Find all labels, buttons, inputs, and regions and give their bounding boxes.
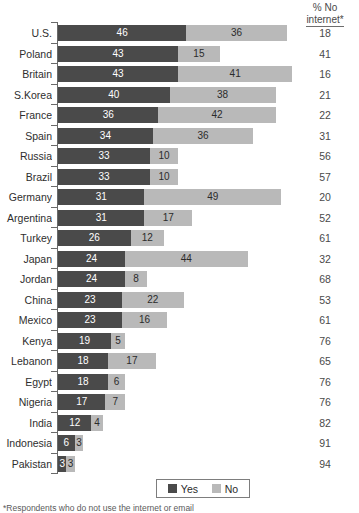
country-label: India	[0, 414, 52, 432]
bar-value-yes: 31	[58, 189, 144, 205]
bar-value-no: 7	[105, 394, 125, 410]
chart-row: Germany314920	[0, 188, 359, 206]
no-internet-value: 52	[296, 209, 354, 227]
chart-row: Jordan24868	[0, 270, 359, 288]
bar-value-yes: 40	[58, 87, 170, 103]
bar-value-no: 49	[144, 189, 281, 205]
bar-value-yes: 23	[58, 292, 122, 308]
chart-row: U.S.463618	[0, 24, 359, 42]
stacked-bar: 3310	[58, 169, 178, 185]
bar-segment-no: 15	[178, 46, 220, 62]
stacked-bar: 2612	[58, 230, 164, 246]
chart-row: Brazil331057	[0, 168, 359, 186]
bar-segment-no: 7	[105, 394, 125, 410]
bar-segment-yes: 6	[58, 435, 75, 451]
bar-segment-yes: 26	[58, 230, 131, 246]
bar-segment-no: 49	[144, 189, 281, 205]
stacked-bar: 186	[58, 374, 125, 390]
bar-value-yes: 23	[58, 312, 122, 328]
no-internet-value: 76	[296, 393, 354, 411]
bar-segment-yes: 23	[58, 312, 122, 328]
stacked-bar: 177	[58, 394, 125, 410]
no-internet-value: 76	[296, 373, 354, 391]
bar-segment-no: 36	[186, 25, 286, 41]
no-internet-value: 57	[296, 168, 354, 186]
country-label: Russia	[0, 147, 52, 165]
stacked-bar: 3310	[58, 148, 178, 164]
bar-value-no: 16	[122, 312, 167, 328]
country-label: Mexico	[0, 311, 52, 329]
bar-segment-no: 10	[150, 169, 178, 185]
stacked-bar: 4038	[58, 87, 276, 103]
axis-tick	[51, 371, 58, 372]
no-internet-value: 41	[296, 45, 354, 63]
bar-segment-yes: 12	[58, 415, 91, 431]
stacked-bar: 4636	[58, 25, 287, 41]
bar-segment-yes: 33	[58, 148, 150, 164]
chart-legend: Yes No	[156, 479, 250, 498]
bar-segment-yes: 19	[58, 333, 111, 349]
bar-value-yes: 26	[58, 230, 131, 246]
stacked-bar: 4315	[58, 46, 220, 62]
chart-row: Russia331056	[0, 147, 359, 165]
axis-tick	[51, 473, 58, 474]
bar-value-yes: 12	[58, 415, 91, 431]
bar-segment-no: 6	[108, 374, 125, 390]
country-label: Germany	[0, 188, 52, 206]
country-label: U.S.	[0, 24, 52, 42]
bar-segment-yes: 3	[58, 456, 66, 472]
bar-value-yes: 43	[58, 46, 178, 62]
country-label: Jordan	[0, 270, 52, 288]
bar-segment-yes: 31	[58, 210, 144, 226]
bar-segment-yes: 18	[58, 353, 108, 369]
no-internet-value: 65	[296, 352, 354, 370]
bar-segment-no: 36	[153, 128, 253, 144]
axis-tick	[51, 391, 58, 392]
stacked-bar: 3642	[58, 107, 276, 123]
no-internet-value: 16	[296, 65, 354, 83]
bar-value-yes: 31	[58, 210, 144, 226]
no-internet-value: 76	[296, 332, 354, 350]
axis-tick	[51, 186, 58, 187]
chart-row: Pakistan3394	[0, 455, 359, 473]
chart-row: Spain343631	[0, 127, 359, 145]
stacked-bar: 2322	[58, 292, 184, 308]
bar-value-yes: 17	[58, 394, 105, 410]
bar-segment-yes: 17	[58, 394, 105, 410]
bar-value-no: 5	[111, 333, 125, 349]
bar-value-yes: 18	[58, 353, 108, 369]
bar-value-yes: 33	[58, 148, 150, 164]
chart-row: France364222	[0, 106, 359, 124]
bar-value-yes: 43	[58, 66, 178, 82]
bar-segment-yes: 31	[58, 189, 144, 205]
axis-tick	[51, 248, 58, 249]
chart-footnote: *Respondents who do not use the internet…	[3, 503, 194, 513]
bar-value-yes: 24	[58, 251, 125, 267]
stacked-bar: 248	[58, 271, 147, 287]
no-internet-value: 21	[296, 86, 354, 104]
bar-value-no: 36	[186, 25, 286, 41]
country-label: Britain	[0, 65, 52, 83]
bar-value-yes: 24	[58, 271, 125, 287]
bar-segment-no: 4	[91, 415, 102, 431]
no-internet-value: 91	[296, 434, 354, 452]
bar-value-no: 22	[122, 292, 183, 308]
axis-tick	[51, 309, 58, 310]
stacked-bar: 2444	[58, 251, 248, 267]
country-label: China	[0, 291, 52, 309]
bar-value-no: 3	[75, 435, 83, 451]
bar-segment-no: 16	[122, 312, 167, 328]
bar-segment-no: 5	[111, 333, 125, 349]
bar-value-no: 10	[150, 148, 178, 164]
bar-segment-no: 22	[122, 292, 183, 308]
axis-tick	[51, 330, 58, 331]
bar-segment-no: 3	[75, 435, 83, 451]
no-internet-value: 61	[296, 229, 354, 247]
country-label: Argentina	[0, 209, 52, 227]
chart-row: Japan244432	[0, 250, 359, 268]
bar-segment-no: 3	[66, 456, 74, 472]
axis-tick	[51, 145, 58, 146]
bar-value-no: 8	[125, 271, 147, 287]
chart-row: Lebanon181765	[0, 352, 359, 370]
